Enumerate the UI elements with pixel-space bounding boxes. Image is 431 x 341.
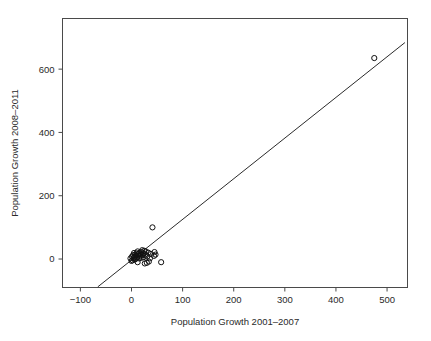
data-point [372, 55, 377, 60]
scatter-plot-figure: −1000100200300400500 0200400600 Populati… [0, 0, 431, 341]
x-tick-label: 300 [277, 294, 293, 305]
x-axis-title: Population Growth 2001–2007 [171, 316, 299, 327]
scatter-points [128, 55, 377, 266]
x-tick-label: 100 [175, 294, 191, 305]
y-tick-label: 200 [39, 190, 55, 201]
y-tick-label: 0 [49, 253, 54, 264]
y-tick-label: 600 [39, 64, 55, 75]
chart-canvas: −1000100200300400500 0200400600 Populati… [0, 0, 431, 341]
x-tick-label: 200 [226, 294, 242, 305]
x-axis-ticks: −1000100200300400500 [70, 288, 395, 305]
x-tick-label: 500 [379, 294, 395, 305]
y-axis-title: Population Growth 2008–2011 [9, 89, 20, 217]
x-tick-label: −100 [70, 294, 91, 305]
y-tick-label: 400 [39, 127, 55, 138]
data-point [150, 225, 155, 230]
x-tick-label: 0 [129, 294, 134, 305]
plot-frame [63, 19, 408, 288]
x-tick-label: 400 [328, 294, 344, 305]
data-point [159, 260, 164, 265]
y-axis-ticks: 0200400600 [39, 64, 63, 265]
